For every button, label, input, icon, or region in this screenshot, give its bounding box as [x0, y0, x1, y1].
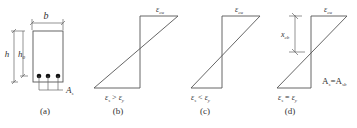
caption-b: (b) [113, 106, 124, 116]
neutral-axis-depth-label: xcb [280, 30, 290, 40]
caption-c: (c) [200, 106, 210, 116]
strain-diagram-figure: b h h0 As (a) εcu εs>εy (b) [0, 0, 357, 128]
strain-condition: εs=εy [278, 93, 298, 103]
width-label: b [44, 10, 49, 21]
strain-diagonal [94, 16, 178, 88]
top-strain-label: εcu [235, 5, 243, 15]
top-strain-label: εcu [156, 5, 164, 15]
steel-area-label: As [65, 85, 74, 96]
top-strain-label: εcu [324, 5, 332, 15]
strain-condition: εs<εy [191, 93, 211, 103]
panel-a-cross-section: b h h0 As (a) [5, 10, 74, 116]
height-label: h [5, 49, 10, 59]
panel-c-strain-diagram: εcu εs<εy (c) [191, 5, 260, 116]
panel-d-strain-diagram: εcu xcb As=Asb εs=εy (d) [277, 5, 347, 116]
caption-d: (d) [285, 106, 296, 116]
caption-a: (a) [40, 106, 50, 116]
panel-b-strain-diagram: εcu εs>εy (b) [94, 5, 178, 116]
effective-depth-label: h0 [18, 49, 26, 60]
balanced-area-note: As=Asb [322, 76, 347, 87]
strain-diagonal [191, 16, 260, 88]
rebar-leader-line [39, 76, 63, 90]
strain-condition: εs>εy [105, 93, 125, 103]
